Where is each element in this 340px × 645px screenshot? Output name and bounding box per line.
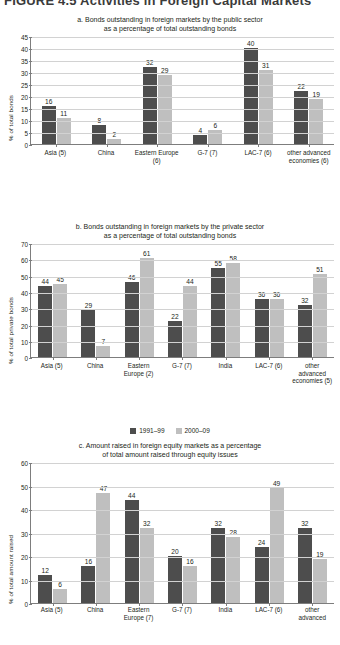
legend-item: 1991–99 xyxy=(130,427,164,434)
bar: 20 xyxy=(168,556,182,603)
chart-c-title: c. Amount raised in foreign equity marke… xyxy=(0,442,340,459)
chart-a-x-axis-labels: Asia (5)ChinaEastern Europe (6)G-7 (7)LA… xyxy=(30,149,334,164)
legend-label: 1991–99 xyxy=(139,427,164,434)
y-axis-tick-mark xyxy=(29,358,32,359)
bar: 16 xyxy=(42,106,56,144)
bar: 44 xyxy=(38,286,52,358)
x-axis-category-label: Asia (5) xyxy=(30,149,81,164)
chart-a-title: a. Bonds outstanding in foreign markets … xyxy=(0,16,340,33)
bar: 16 xyxy=(81,566,95,604)
bar-value-label: 31 xyxy=(262,62,269,69)
x-axis-category-label: other advanced xyxy=(291,606,334,621)
gridline xyxy=(31,244,334,245)
chart-c-axes: 126164744322016322824493219 010203040506… xyxy=(30,463,334,604)
chart-c-title-line1: c. Amount raised in foreign equity marke… xyxy=(26,442,314,451)
y-axis-tick-label: 20 xyxy=(21,94,28,101)
gridline xyxy=(31,133,334,134)
bar-value-label: 44 xyxy=(186,278,193,285)
x-axis-category-label: Eastern Europe (7) xyxy=(117,606,160,621)
bar-value-label: 32 xyxy=(143,520,150,527)
y-axis-tick-mark xyxy=(29,293,32,294)
gridline xyxy=(31,487,334,488)
gridline xyxy=(31,260,334,261)
bar: 36 xyxy=(255,299,269,358)
chart-b-title-line2: as a percentage of total outstanding bon… xyxy=(26,232,314,241)
y-axis-tick-mark xyxy=(29,534,32,535)
bar-value-label: 16 xyxy=(45,98,52,105)
x-axis-category-label: Asia (5) xyxy=(30,606,73,621)
y-axis-tick-mark xyxy=(29,557,32,558)
y-axis-tick-mark xyxy=(29,604,32,605)
bar-value-label: 6 xyxy=(213,122,217,129)
figure-heading: FIGURE 4.5 Activities in Foreign Capital… xyxy=(0,0,340,12)
chart-c-y-axis-label: % of total amount raised xyxy=(7,535,14,604)
bar-group: 4031 xyxy=(233,37,284,144)
bar: 2 xyxy=(107,139,121,144)
y-axis-tick-mark xyxy=(29,85,32,86)
y-axis-tick-label: 30 xyxy=(21,530,28,537)
y-axis-tick-label: 0 xyxy=(24,355,28,362)
chart-a-plot-area: % of total bonds 16118232294640312219 05… xyxy=(0,33,340,163)
chart-b-axes: 444529746612244555836363251 010203040506… xyxy=(30,244,334,358)
bar-value-label: 36 xyxy=(273,291,280,298)
chart-c-x-axis-labels: Asia (5)ChinaEastern Europe (7)G-7 (7)In… xyxy=(30,606,334,621)
bar: 12 xyxy=(38,575,52,603)
y-axis-tick-mark xyxy=(29,326,32,327)
bar: 51 xyxy=(313,274,327,357)
bar: 32 xyxy=(298,305,312,357)
legend-item: 2000–09 xyxy=(176,427,210,434)
bar: 6 xyxy=(53,589,67,603)
bar-value-label: 51 xyxy=(316,266,323,273)
figure-page: { "figure": { "heading": "FIGURE 4.5 Act… xyxy=(0,0,340,645)
bar: 36 xyxy=(270,299,284,358)
bar-value-label: 22 xyxy=(171,313,178,320)
chart-b-title: b. Bonds outstanding in foreign markets … xyxy=(0,223,340,240)
gridline xyxy=(31,534,334,535)
chart-legend: 1991–992000–09 xyxy=(0,427,340,434)
gridline xyxy=(31,326,334,327)
bar: 29 xyxy=(81,310,95,357)
gridline xyxy=(31,109,334,110)
bar: 24 xyxy=(255,547,269,603)
y-axis-tick-label: 70 xyxy=(21,241,28,248)
chart-panel-c: c. Amount raised in foreign equity marke… xyxy=(0,442,340,644)
bar: 6 xyxy=(208,130,222,144)
chart-b-x-axis-labels: Asia (5)ChinaEastern Europe (2)G-7 (7)In… xyxy=(30,362,334,385)
y-axis-tick-mark xyxy=(29,463,32,464)
x-axis-category-label: LAC-7 (6) xyxy=(247,606,290,621)
x-axis-category-label: other advanced economies (6) xyxy=(283,149,334,164)
bar: 40 xyxy=(244,48,258,144)
chart-a-y-axis-label: % of total bonds xyxy=(7,95,14,141)
gridline xyxy=(31,510,334,511)
chart-a-title-line2: as a percentage of total outstanding bon… xyxy=(26,25,314,34)
bar-value-label: 32 xyxy=(301,520,308,527)
bar: 7 xyxy=(96,346,110,357)
gridline xyxy=(31,97,334,98)
y-axis-tick-mark xyxy=(29,487,32,488)
bar-value-label: 46 xyxy=(128,274,135,281)
bar-group: 3229 xyxy=(132,37,183,144)
gridline xyxy=(31,61,334,62)
bar: 44 xyxy=(125,500,139,603)
legend-label: 2000–09 xyxy=(185,427,210,434)
bar-value-label: 44 xyxy=(41,278,48,285)
gridline xyxy=(31,581,334,582)
y-axis-tick-label: 10 xyxy=(21,338,28,345)
chart-a-title-line1: a. Bonds outstanding in foreign markets … xyxy=(26,16,314,25)
y-axis-tick-mark xyxy=(29,309,32,310)
bar: 32 xyxy=(298,528,312,603)
bar-value-label: 12 xyxy=(41,567,48,574)
y-axis-tick-label: 0 xyxy=(24,601,28,608)
y-axis-tick-label: 10 xyxy=(21,577,28,584)
bar: 4 xyxy=(193,135,207,145)
bar-value-label: 20 xyxy=(171,548,178,555)
y-axis-tick-mark xyxy=(29,109,32,110)
y-axis-tick-label: 10 xyxy=(21,118,28,125)
figure-heading-text: FIGURE 4.5 Activities in Foreign Capital… xyxy=(4,0,311,8)
x-axis-category-label: other advanced economies (5) xyxy=(291,362,334,385)
chart-b-title-line1: b. Bonds outstanding in foreign markets … xyxy=(26,223,314,232)
bar-group: 46 xyxy=(183,37,234,144)
y-axis-tick-label: 60 xyxy=(21,460,28,467)
x-axis-category-label: Asia (5) xyxy=(30,362,73,385)
gridline xyxy=(31,121,334,122)
